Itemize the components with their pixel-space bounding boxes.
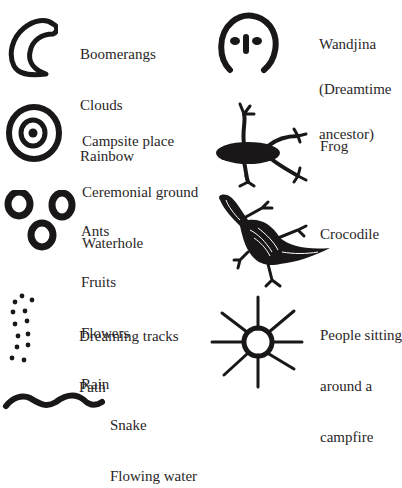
label-line: People sitting xyxy=(320,327,402,344)
legend-label-snake: Snake Flowing water xyxy=(110,383,197,488)
label-line: Snake xyxy=(110,417,197,434)
label-line: (Dreamtime xyxy=(319,82,391,97)
label-line: Campsite place xyxy=(82,133,198,150)
legend-label-campfire: People sitting around a campfire xyxy=(320,293,402,463)
label-line: Wandjina xyxy=(319,37,391,52)
three-rings-icon xyxy=(4,190,76,254)
label-line: Fruits xyxy=(81,274,129,291)
label-line: Flowing water xyxy=(110,468,197,485)
legend-label-frog: Frog xyxy=(320,104,348,172)
frog-icon xyxy=(214,100,310,188)
legend-label-crocodile: Crocodile xyxy=(320,192,379,260)
crescent-icon xyxy=(6,14,58,78)
crocodile-icon xyxy=(214,190,334,290)
campfire-circle-icon xyxy=(210,295,304,389)
wavy-line-icon xyxy=(2,388,106,412)
label-line: Crocodile xyxy=(320,226,379,243)
label-line: Dreaming tracks xyxy=(79,328,179,345)
label-line: Frog xyxy=(320,138,348,155)
wandjina-face-icon xyxy=(216,12,280,74)
dotted-tracks-icon xyxy=(6,292,36,364)
label-line: campfire xyxy=(320,429,402,446)
label-line: Boomerangs xyxy=(80,46,156,63)
concentric-circles-icon xyxy=(4,102,64,164)
label-line: around a xyxy=(320,378,402,395)
label-line: Ants xyxy=(81,223,129,240)
